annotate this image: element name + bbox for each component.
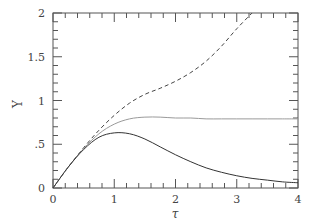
series-gray (53, 117, 298, 188)
x-tick-label: 3 (233, 193, 240, 206)
tick-labels: 012340.511.52 (28, 7, 302, 206)
x-axis-label: τ (172, 207, 179, 221)
plot-frame (53, 13, 298, 188)
x-tick-label: 1 (111, 193, 118, 206)
x-tick-label: 0 (50, 193, 57, 206)
y-axis-label: Y (11, 99, 25, 109)
y-tick-label: .5 (35, 138, 46, 151)
y-tick-label: 2 (38, 7, 45, 20)
x-tick-label: 4 (295, 193, 302, 206)
line-chart: 012340.511.52 τ Y (0, 0, 310, 222)
curves (53, 13, 298, 188)
x-tick-label: 2 (172, 193, 179, 206)
y-tick-label: 1.5 (28, 51, 46, 64)
minor-ticks (53, 13, 298, 188)
y-tick-label: 1 (38, 95, 45, 108)
y-tick-label: 0 (38, 182, 45, 195)
series-dashed (53, 13, 252, 188)
